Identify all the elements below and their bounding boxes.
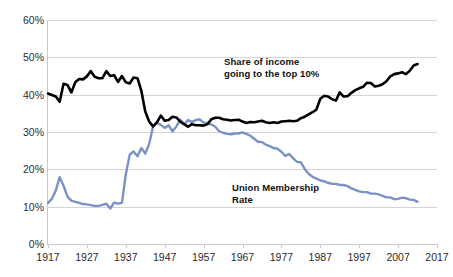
x-tick-1967	[243, 244, 244, 248]
income-share-annotation: Share of income going to the top 10%	[224, 56, 319, 79]
x-tick-1977	[281, 244, 282, 248]
x-tick-1937	[126, 244, 127, 248]
x-tick-1947	[165, 244, 166, 248]
x-tick-1927	[87, 244, 88, 248]
x-tick-1997	[359, 244, 360, 248]
x-tick-2017	[437, 244, 438, 248]
x-tick-1917	[48, 244, 49, 248]
series-layer	[0, 0, 453, 277]
x-tick-1957	[204, 244, 205, 248]
x-tick-1987	[320, 244, 321, 248]
income-union-line-chart: 0%10%20%30%40%50%60% Share of income goi…	[0, 0, 453, 277]
union-rate-annotation: Union Membership Rate	[232, 182, 319, 205]
x-tick-2007	[398, 244, 399, 248]
x-tick-label-2017: 2017	[414, 251, 453, 263]
